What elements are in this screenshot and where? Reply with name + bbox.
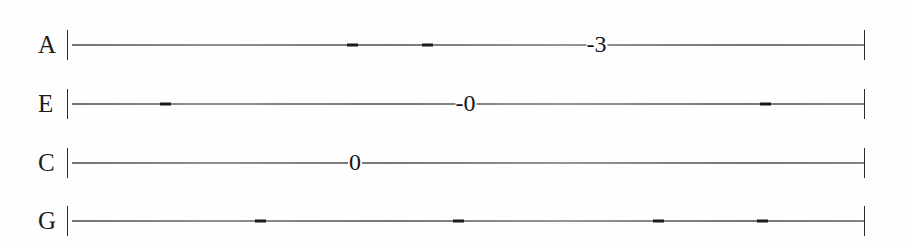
string-label-e: E — [38, 91, 53, 116]
string-line — [72, 163, 864, 164]
dash-tick — [760, 103, 771, 106]
barline-end — [864, 30, 865, 60]
dash-tick — [653, 220, 664, 223]
string-line — [72, 221, 864, 222]
dash-tick — [255, 220, 266, 223]
tablature-sheet: A-3E-0C0G — [0, 0, 910, 247]
fret-number: 0 — [348, 150, 362, 174]
dash-tick — [757, 220, 768, 223]
barline-start — [67, 148, 68, 178]
dash-tick — [453, 220, 464, 223]
string-label-a: A — [38, 32, 56, 57]
barline-end — [864, 206, 865, 236]
tab-string-row: A-3 — [0, 24, 910, 66]
fret-number: -0 — [456, 91, 477, 115]
barline-start — [67, 206, 68, 236]
fret-number: -3 — [587, 32, 608, 56]
tab-string-row: C0 — [0, 142, 910, 184]
barline-start — [67, 30, 68, 60]
tab-string-row: E-0 — [0, 83, 910, 125]
dash-tick — [422, 44, 433, 47]
barline-end — [864, 148, 865, 178]
string-label-g: G — [38, 208, 56, 233]
string-line — [72, 45, 864, 46]
dash-tick — [160, 103, 171, 106]
dash-tick — [347, 44, 358, 47]
barline-end — [864, 89, 865, 119]
string-label-c: C — [38, 150, 55, 175]
tab-string-row: G — [0, 200, 910, 242]
barline-start — [67, 89, 68, 119]
